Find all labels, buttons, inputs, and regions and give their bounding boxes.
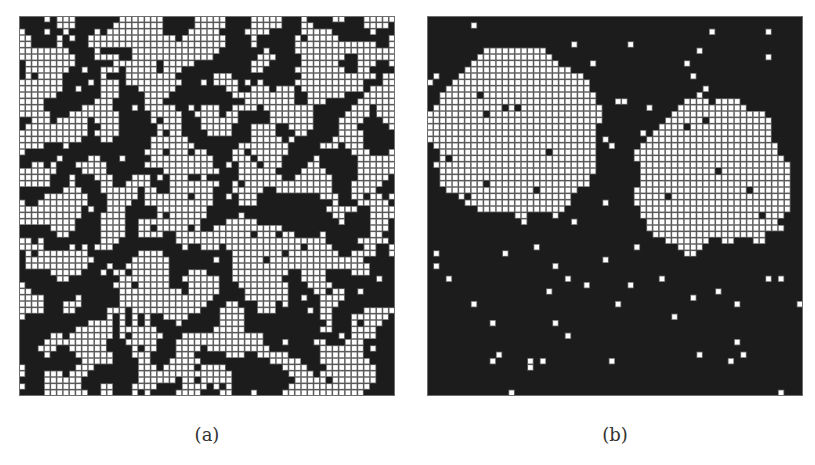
lattice-grid-b	[427, 16, 803, 396]
panel-label-b: (b)	[585, 424, 645, 445]
panel-label-a: (a)	[177, 424, 237, 445]
lattice-panel-a	[19, 16, 395, 396]
lattice-panel-b	[427, 16, 803, 396]
lattice-grid-a	[19, 16, 395, 396]
